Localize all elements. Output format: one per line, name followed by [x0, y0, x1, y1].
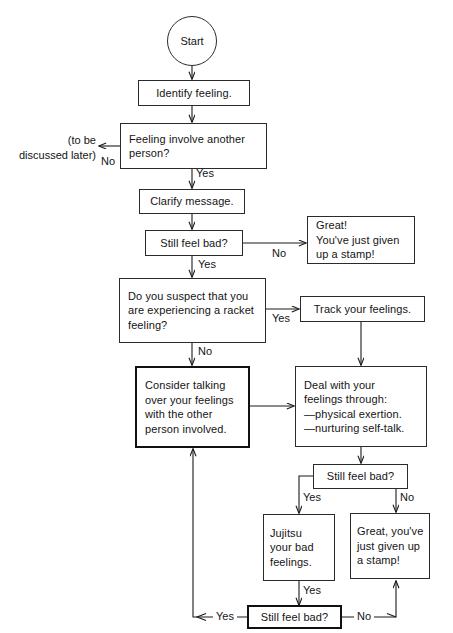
- edge-label-no-involve-another: No: [101, 155, 115, 168]
- node-great-given-up-stamp-1-label: Great! You've just given up a stamp!: [316, 218, 414, 262]
- node-clarify-message-label: Clarify message.: [140, 194, 244, 209]
- node-still-feel-bad-2-label: Still feel bad?: [314, 469, 407, 484]
- node-still-feel-bad-2[interactable]: Still feel bad?: [313, 464, 408, 489]
- node-feeling-involve-another-label: Feeling involve another person?: [129, 132, 266, 161]
- node-great-given-up-stamp-2[interactable]: Great, you've just given up a stamp!: [350, 513, 430, 579]
- annotation-to-be-discussed-later: (to be discussed later): [8, 133, 96, 163]
- node-still-feel-bad-1[interactable]: Still feel bad?: [145, 230, 243, 256]
- node-great-given-up-stamp-1[interactable]: Great! You've just given up a stamp!: [307, 216, 415, 264]
- edge-label-yes-still-bad-3: Yes: [213, 610, 237, 623]
- node-identify-feeling-label: Identify feeling.: [139, 86, 249, 101]
- node-consider-talking[interactable]: Consider talking over your feelings with…: [135, 366, 250, 448]
- edge-label-yes-jujitsu: Yes: [303, 584, 321, 597]
- flowchart-canvas: left --> Great! box --> racket question …: [0, 0, 453, 633]
- node-start[interactable]: Start: [167, 16, 217, 66]
- edge-label-yes-still-bad-2: Yes: [303, 491, 321, 504]
- edge-label-yes-still-bad-1: Yes: [198, 258, 216, 271]
- node-still-feel-bad-1-label: Still feel bad?: [146, 236, 242, 251]
- node-still-feel-bad-3-label: Still feel bad?: [249, 610, 340, 625]
- node-deal-with-feelings-label: Deal with your feelings through: —physic…: [304, 378, 426, 436]
- edge-label-no-still-bad-2: No: [400, 491, 414, 504]
- edge-label-yes-racket: Yes: [272, 312, 290, 325]
- node-great-given-up-stamp-2-label: Great, you've just given up a stamp!: [357, 524, 429, 568]
- node-racket-feeling-question-label: Do you suspect that you are experiencing…: [128, 289, 265, 333]
- node-track-your-feelings[interactable]: Track your feelings.: [300, 296, 425, 322]
- edge-label-no-racket: No: [198, 345, 212, 358]
- node-feeling-involve-another[interactable]: Feeling involve another person?: [120, 123, 267, 169]
- node-racket-feeling-question[interactable]: Do you suspect that you are experiencing…: [119, 278, 266, 343]
- node-start-label: Start: [180, 35, 203, 47]
- edge-label-no-still-bad-3: No: [354, 610, 374, 623]
- node-consider-talking-label: Consider talking over your feelings with…: [145, 378, 248, 436]
- node-jujitsu[interactable]: Jujitsu your bad feelings.: [263, 514, 335, 581]
- node-still-feel-bad-3[interactable]: Still feel bad?: [247, 605, 342, 629]
- node-track-your-feelings-label: Track your feelings.: [301, 302, 424, 317]
- edge-stillbad3-yes: [193, 449, 247, 617]
- node-clarify-message[interactable]: Clarify message.: [139, 189, 245, 214]
- edge-label-no-still-bad-1: No: [272, 247, 286, 260]
- edge-label-yes-involve-another: Yes: [196, 167, 214, 180]
- node-identify-feeling[interactable]: Identify feeling.: [138, 80, 250, 106]
- node-jujitsu-label: Jujitsu your bad feelings.: [270, 526, 334, 570]
- node-deal-with-feelings[interactable]: Deal with your feelings through: —physic…: [295, 366, 427, 447]
